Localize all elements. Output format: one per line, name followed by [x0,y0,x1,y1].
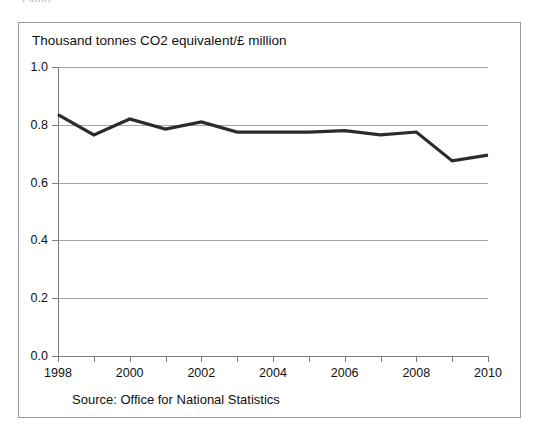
data-line-series [58,67,488,356]
x-axis-label: 2000 [116,366,144,380]
chart-title: Thousand tonnes CO2 equivalent/£ million [32,33,286,48]
clipped-heading-text: Figure [22,0,54,2]
x-axis-label: 2006 [331,366,359,380]
x-axis-label: 2004 [259,366,287,380]
y-axis-label: 0.8 [31,118,48,132]
x-axis-label: 1998 [44,366,72,380]
x-axis-label: 2010 [474,366,502,380]
y-axis-label: 0.6 [31,176,48,190]
x-axis-line [58,356,488,357]
chart-frame: Thousand tonnes CO2 equivalent/£ million… [18,22,521,418]
x-axis-tick [488,356,489,362]
y-axis-label: 0.0 [31,349,48,363]
x-axis-label: 2002 [187,366,215,380]
y-axis-label: 0.4 [31,233,48,247]
figure-root: Figure Thousand tonnes CO2 equivalent/£ … [0,0,538,438]
y-axis-label: 1.0 [31,60,48,74]
y-axis-label: 0.2 [31,291,48,305]
source-note: Source: Office for National Statistics [72,392,280,407]
plot-area: 1.00.80.60.40.20.0 199820002002200420062… [58,67,488,356]
x-axis-label: 2008 [402,366,430,380]
